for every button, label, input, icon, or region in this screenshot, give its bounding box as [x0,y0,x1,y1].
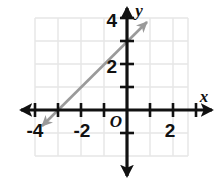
y-axis-label-2: 2 [106,56,117,77]
x-axis-label-neg2: -2 [74,120,91,141]
coordinate-plane-svg: 4 2 -4 -2 2 O x y [0,0,224,183]
y-axis-label-4: 4 [106,10,117,31]
x-axis-name-label: x [199,87,209,106]
x-axis-label-2: 2 [165,120,176,141]
y-axis-name-label: y [133,1,143,20]
coordinate-plane-figure: 4 2 -4 -2 2 O x y [0,0,224,183]
x-axis-label-neg4: -4 [27,120,44,141]
origin-label: O [110,112,122,131]
